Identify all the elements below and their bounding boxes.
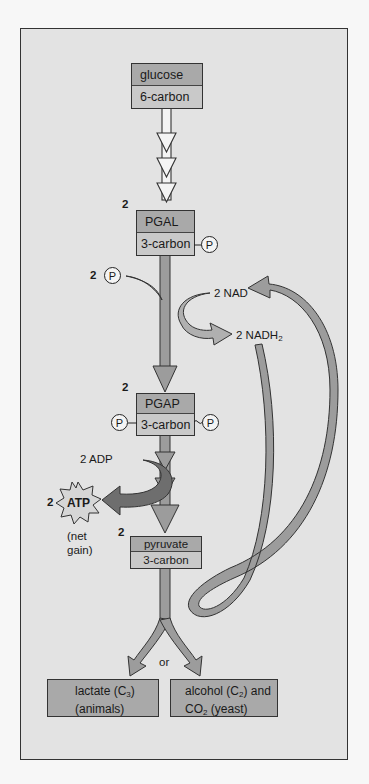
glucose-carbons: 6-carbon — [132, 86, 202, 108]
or-label: or — [159, 656, 169, 668]
pgal-phosphate-icon: P — [201, 236, 218, 253]
alcohol-line1: alcohol (C2) and — [185, 684, 271, 702]
pgap-count: 2 — [122, 381, 128, 393]
nadh2-subscript: 2 — [278, 334, 282, 343]
glucose-box: glucose 6-carbon — [131, 63, 203, 109]
pgal-box: PGAL 3-carbon — [136, 210, 195, 256]
lactate-text: lactate (C — [75, 684, 126, 698]
net-gain-line2: gain) — [67, 544, 93, 556]
co2-text: CO — [185, 702, 203, 716]
lactate-line1: lactate (C3) — [75, 684, 135, 702]
nad-to-nadh2-arrow — [178, 293, 232, 345]
alcohol-end: ) and — [243, 684, 270, 698]
pyruvate-name: pyruvate — [131, 537, 201, 552]
net-gain-line1: (net — [67, 530, 87, 542]
pgap-name: PGAP — [137, 394, 194, 414]
pyruvate-carbons: 3-carbon — [131, 552, 201, 568]
phosphate-input-count: 2 — [90, 269, 96, 281]
yeast-text: (yeast) — [207, 702, 247, 716]
nadh2-text: 2 NADH — [236, 329, 278, 341]
pyruvate-count: 2 — [118, 526, 124, 538]
lactate-box: lactate (C3) (animals) — [47, 679, 159, 717]
pgap-left-bond — [128, 421, 137, 425]
pyruvate-box: pyruvate 3-carbon — [130, 536, 202, 569]
pathway-arrows — [0, 0, 369, 784]
alcohol-box: alcohol (C2) and CO2 (yeast) — [170, 679, 278, 717]
pgal-carbons: 3-carbon — [137, 233, 194, 255]
alcohol-line2: CO2 (yeast) — [185, 702, 271, 720]
nadh2-label: 2 NADH2 — [236, 329, 283, 343]
pgal-name: PGAL — [137, 211, 194, 233]
pgap-left-phosphate-icon: P — [111, 414, 128, 431]
adp-label: 2 ADP — [80, 453, 113, 465]
phosphate-input-icon: P — [104, 267, 121, 284]
glucose-to-pgal-arrow — [157, 108, 176, 202]
glucose-name: glucose — [132, 64, 202, 86]
lactate-line2: (animals) — [75, 702, 135, 717]
alcohol-text: alcohol (C — [185, 684, 239, 698]
pgal-to-pgap-arrow — [153, 255, 177, 392]
atp-count: 2 — [47, 496, 53, 508]
phosphate-input-arrow — [126, 276, 162, 300]
lactate-end: ) — [131, 684, 135, 698]
nad-label: 2 NAD — [214, 287, 248, 299]
atp-label: ATP — [67, 496, 90, 510]
pgap-carbons: 3-carbon — [137, 414, 194, 435]
pgap-box: PGAP 3-carbon — [136, 393, 195, 436]
pgal-count: 2 — [122, 198, 128, 210]
pgap-right-phosphate-icon: P — [202, 414, 219, 431]
